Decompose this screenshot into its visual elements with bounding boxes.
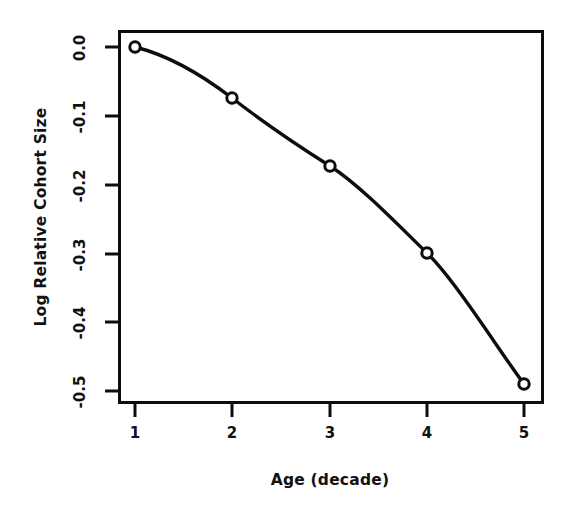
x-axis-title: Age (decade): [130, 471, 530, 489]
x-tick-label-4: 4: [407, 424, 447, 442]
x-tick-label-5: 5: [504, 424, 544, 442]
data-point-3: [325, 161, 335, 171]
x-axis-ticks: [135, 403, 524, 417]
y-tick-label-0: 0.0: [71, 25, 89, 71]
y-axis-ticks: [105, 47, 119, 391]
y-tick-label-2: -0.2: [71, 163, 89, 209]
data-point-2: [227, 93, 237, 103]
y-tick-label-5: -0.5: [71, 369, 89, 415]
fitted-curve: [135, 47, 524, 384]
y-axis-title: Log Relative Cohort Size: [32, 2, 50, 432]
y-tick-label-4: -0.4: [71, 300, 89, 346]
x-tick-label-1: 1: [115, 424, 155, 442]
plot-frame: [120, 32, 543, 403]
data-point-1: [130, 42, 140, 52]
data-point-markers: [130, 42, 529, 389]
chart-figure: 0.0 -0.1 -0.2 -0.3 -0.4 -0.5 1 2 3 4 5 L…: [0, 0, 566, 519]
x-tick-label-2: 2: [212, 424, 252, 442]
data-point-5: [519, 379, 529, 389]
y-tick-label-3: -0.3: [71, 232, 89, 278]
data-point-4: [422, 248, 432, 258]
x-tick-label-3: 3: [310, 424, 350, 442]
y-tick-label-1: -0.1: [71, 94, 89, 140]
